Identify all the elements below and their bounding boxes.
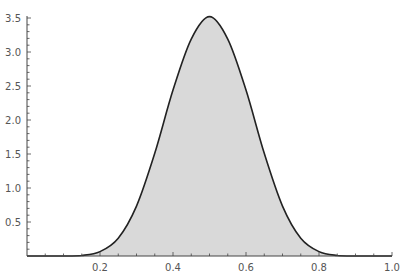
x-tick-label: 0.8 [311, 262, 327, 273]
y-tick-label: 1.0 [5, 183, 21, 194]
x-tick-label: 1.0 [384, 262, 400, 273]
plot-area [27, 17, 392, 256]
y-tick-label: 0.5 [5, 217, 21, 228]
x-tick-label: 0.2 [92, 262, 108, 273]
y-tick-label: 3.5 [5, 13, 21, 24]
density-chart: 0.20.40.60.81.00.51.01.52.02.53.03.5 [0, 0, 404, 278]
density-area [27, 17, 392, 256]
y-tick-label: 1.5 [5, 149, 21, 160]
y-tick-label: 2.5 [5, 81, 21, 92]
y-tick-label: 3.0 [5, 47, 21, 58]
x-tick-label: 0.4 [165, 262, 181, 273]
y-tick-label: 2.0 [5, 115, 21, 126]
x-tick-label: 0.6 [238, 262, 254, 273]
